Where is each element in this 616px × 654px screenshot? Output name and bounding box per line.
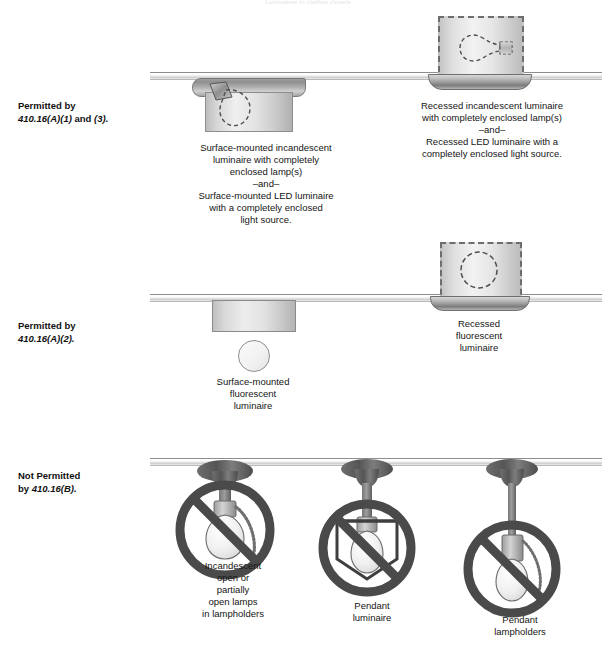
row1-label-mid: and bbox=[72, 113, 94, 124]
faded-page-title: Luminaires in clothes closets bbox=[0, 0, 616, 5]
caption-incandescent-open-lamps: Incandescent open or partially open lamp… bbox=[170, 560, 296, 620]
row2-label-code: 410.16(A)(2). bbox=[18, 333, 75, 344]
surface-fluorescent-lamp bbox=[238, 340, 270, 372]
recessed-fluorescent-lamp-icon bbox=[440, 242, 518, 300]
recessed-incandescent-trim bbox=[428, 74, 532, 90]
incandescent-open-lampholder-graphic bbox=[168, 455, 298, 575]
recessed-incandescent-lamp-icon bbox=[438, 16, 530, 80]
row1-label-code2: (3). bbox=[94, 113, 108, 124]
row-label-permitted-a2: Permitted by 410.16(A)(2). bbox=[18, 320, 148, 345]
caption-recessed-fluorescent: Recessed fluorescent luminaire bbox=[420, 318, 538, 354]
caption-surface-mounted-fluorescent: Surface-mounted fluorescent luminaire bbox=[193, 376, 313, 412]
row3-label-line1: Not Permitted bbox=[18, 470, 80, 481]
caption-pendant-luminaire: Pendant luminaire bbox=[312, 600, 432, 624]
row3-label-pre: by bbox=[18, 483, 32, 494]
row1-label-line1: Permitted by bbox=[18, 100, 76, 111]
row2-label-line1: Permitted by bbox=[18, 320, 76, 331]
row-label-permitted-a1-a3: Permitted by 410.16(A)(1) and (3). bbox=[18, 100, 148, 125]
pendant-luminaire-graphic bbox=[315, 455, 445, 585]
row-label-not-permitted-b: Not Permitted by 410.16(B). bbox=[18, 470, 148, 495]
surface-fluorescent-body bbox=[212, 300, 296, 332]
pendant-lampholders-graphic bbox=[460, 455, 590, 595]
caption-surface-mounted-incandescent: Surface-mounted incandescent luminaire w… bbox=[168, 142, 364, 226]
caption-pendant-lampholders: Pendant lampholders bbox=[458, 614, 582, 638]
row1-label-code: 410.16(A)(1) bbox=[18, 113, 72, 124]
caption-recessed-incandescent: Recessed incandescent luminaire with com… bbox=[392, 100, 592, 160]
surface-incandescent-lamp-icon bbox=[196, 78, 306, 134]
row3-label-code: 410.16(B). bbox=[32, 483, 77, 494]
diagram-canvas: Luminaires in clothes closets Permitted … bbox=[0, 0, 616, 654]
recessed-fluorescent-trim bbox=[430, 296, 530, 311]
